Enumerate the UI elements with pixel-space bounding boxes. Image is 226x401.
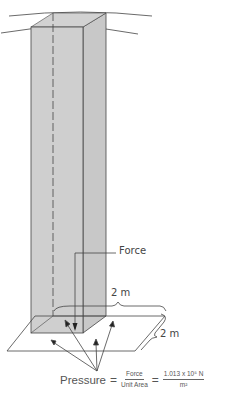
formula-equals-1: =: [110, 373, 117, 387]
fraction-denominator-unit: m²: [180, 380, 188, 389]
formula-fraction-value: 1.013 x 10⁵ N m²: [163, 370, 205, 389]
formula-equals-2: =: [152, 373, 159, 387]
atmosphere-column-diagram: [0, 0, 226, 401]
fraction-numerator-force: Force: [125, 370, 144, 380]
width-dimension-label: 2 m: [111, 287, 130, 298]
fraction-denominator-area: Unit Area: [121, 380, 148, 389]
pressure-formula: Pressure = Force Unit Area = 1.013 x 10⁵…: [60, 370, 204, 389]
fraction-numerator-value: 1.013 x 10⁵ N: [163, 370, 205, 380]
column-side-face: [83, 13, 106, 333]
depth-dimension-label: 2 m: [160, 328, 179, 339]
formula-fraction-force-area: Force Unit Area: [121, 370, 148, 389]
force-label: Force: [119, 245, 146, 256]
formula-pressure: Pressure: [60, 374, 106, 386]
